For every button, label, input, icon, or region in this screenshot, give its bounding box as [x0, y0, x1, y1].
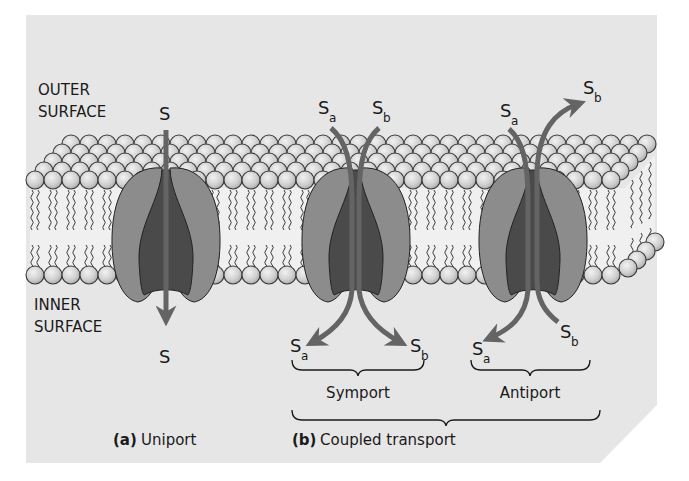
svg-text:(a): (a): [113, 431, 137, 449]
svg-text:b: b: [383, 111, 391, 125]
svg-text:a: a: [301, 349, 308, 363]
antiport-label: Antiport: [500, 384, 561, 402]
antiport-protein: [479, 168, 587, 302]
svg-text:S: S: [560, 321, 571, 342]
svg-text:S: S: [318, 97, 329, 118]
svg-text:(b): (b): [292, 431, 316, 449]
svg-text:S: S: [472, 338, 483, 359]
outer-surface-label-2: SURFACE: [38, 103, 106, 121]
svg-text:a: a: [329, 111, 336, 125]
outer-surface-label: OUTER: [38, 81, 90, 99]
uniport-substrate-top: S: [159, 103, 170, 124]
svg-text:S: S: [410, 335, 421, 356]
svg-text:S: S: [372, 97, 383, 118]
symport-protein: [302, 168, 410, 302]
uniport-substrate-bottom: S: [159, 346, 170, 367]
svg-text:Coupled transport: Coupled transport: [320, 431, 456, 449]
inner-surface-label-2: SURFACE: [34, 318, 102, 336]
inner-surface-label: INNER: [34, 296, 81, 314]
svg-text:Uniport: Uniport: [141, 431, 197, 449]
svg-text:a: a: [483, 352, 490, 366]
svg-text:S: S: [583, 77, 594, 98]
symport-label: Symport: [326, 384, 390, 402]
svg-text:b: b: [421, 349, 429, 363]
uniport-caption: (a) Uniport: [113, 431, 197, 449]
svg-text:a: a: [511, 114, 518, 128]
svg-text:b: b: [594, 91, 602, 105]
membrane-transport-diagram: OUTER SURFACE INNER SURFACE S S S a S b …: [0, 0, 689, 481]
svg-text:S: S: [500, 100, 511, 121]
svg-text:S: S: [290, 335, 301, 356]
svg-text:b: b: [571, 335, 579, 349]
